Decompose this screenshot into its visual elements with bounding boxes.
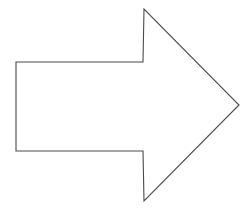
drawing-canvas: Right pointing arrow outline xyxy=(0,0,248,216)
right-arrow-icon xyxy=(16,9,239,201)
arrow-shape-svg xyxy=(0,0,248,216)
